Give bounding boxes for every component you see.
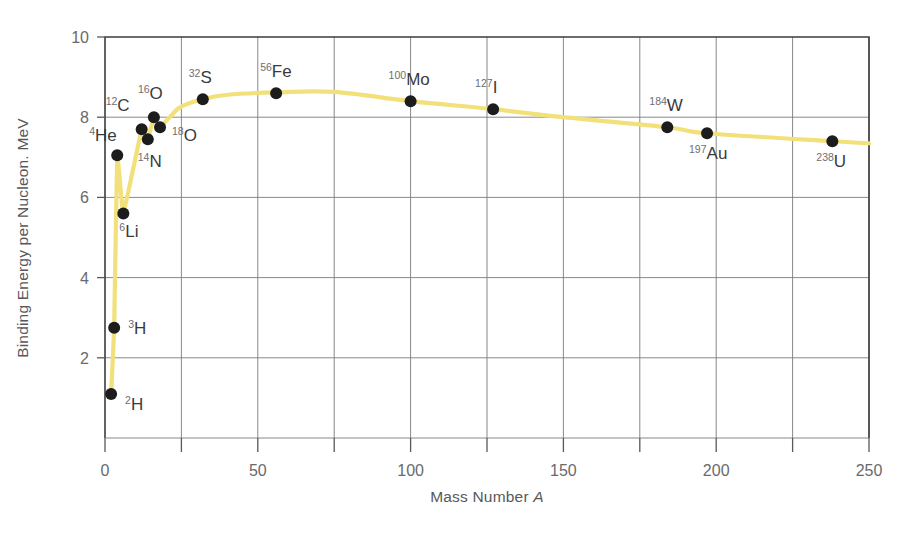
x-tick-label: 250 [856,462,883,479]
isotope-symbol: He [95,126,117,145]
y-tick-label: 4 [80,270,89,287]
x-tick-label: 50 [249,462,267,479]
x-tick-label: 0 [101,462,110,479]
isotope-symbol: Au [707,144,728,163]
y-tick-label: 6 [80,189,89,206]
isotope-mass-number: 14 [138,151,150,163]
isotope-mass-number: 184 [649,95,667,107]
isotope-mass-number: 32 [189,67,201,79]
data-point-marker [701,127,713,139]
isotope-mass-number: 127 [475,77,493,89]
x-tick-label: 100 [397,462,424,479]
isotope-label: 32S [189,67,212,87]
data-point-marker [105,388,117,400]
binding-energy-chart: 2H3H4He6Li12C14N16O18O32S56Fe100Mo127I18… [0,0,918,538]
binding-energy-curve [111,91,869,394]
isotope-symbol: O [150,84,163,103]
data-point-marker [148,111,160,123]
data-point-marker [405,95,417,107]
isotope-mass-number: 197 [689,143,707,155]
point-labels: 2H3H4He6Li12C14N16O18O32S56Fe100Mo127I18… [89,61,846,414]
x-axis-title-text: Mass Number [430,488,533,505]
isotope-symbol: W [667,96,683,115]
isotope-label: 238U [816,151,846,171]
data-point-marker [117,207,129,219]
data-point-marker [111,149,123,161]
isotope-symbol: O [184,126,197,145]
isotope-label: 4He [89,125,117,145]
data-curve [111,91,869,394]
isotope-label: 100Mo [389,69,430,89]
y-axis-title: Binding Energy per Nucleon. MeV [14,118,31,358]
isotope-mass-number: 238 [816,151,834,163]
data-point-marker [197,93,209,105]
x-tick-label: 150 [550,462,577,479]
isotope-label: 16O [138,83,163,103]
isotope-symbol: C [117,96,129,115]
isotope-symbol: I [493,78,498,97]
tick-labels: 050100150200250246810 [71,29,882,479]
data-point-marker [154,121,166,133]
isotope-symbol: Mo [406,70,430,89]
isotope-mass-number: 16 [138,83,150,95]
isotope-symbol: N [149,152,161,171]
isotope-label: 2H [125,394,143,414]
data-point-marker [661,121,673,133]
isotope-label: 197Au [689,143,727,163]
data-point-marker [270,87,282,99]
isotope-symbol: H [131,395,143,414]
y-tick-label: 2 [80,350,89,367]
isotope-symbol: H [134,319,146,338]
x-tick-label: 200 [703,462,730,479]
x-axis-title: Mass Number A [430,488,544,505]
data-point-marker [108,322,120,334]
data-point-marker [142,133,154,145]
axis-ticks [97,37,869,452]
y-tick-label: 10 [71,29,89,46]
x-axis-title-symbol: A [532,488,544,505]
isotope-label: 184W [649,95,683,115]
isotope-label: 14N [138,151,162,171]
isotope-mass-number: 18 [172,125,184,137]
isotope-label: 18O [172,125,197,145]
isotope-symbol: Li [125,222,138,241]
data-point-marker [826,135,838,147]
isotope-label: 127I [475,77,497,97]
data-point-marker [136,123,148,135]
isotope-label: 3H [128,318,146,338]
isotope-mass-number: 100 [389,69,407,81]
y-tick-label: 8 [80,109,89,126]
isotope-mass-number: 56 [260,61,272,73]
isotope-label: 12C [106,95,130,115]
isotope-symbol: S [200,68,211,87]
isotope-symbol: Fe [272,62,292,81]
isotope-mass-number: 12 [106,95,118,107]
isotope-label: 6Li [119,221,138,241]
chart-svg: 2H3H4He6Li12C14N16O18O32S56Fe100Mo127I18… [0,0,918,538]
data-point-marker [487,103,499,115]
isotope-label: 56Fe [260,61,292,81]
isotope-symbol: U [834,152,846,171]
